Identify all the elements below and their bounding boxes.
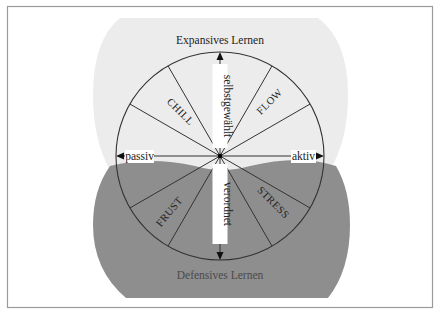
axis-label-verordnet: verordnet	[222, 182, 234, 227]
axis-label-selbstgewaehlt: selbstgewählt	[221, 75, 234, 138]
expansive-learning-title: Expansives Lernen	[176, 34, 264, 47]
diagram-canvas: selbstgewählt verordnet passiv aktiv Exp…	[0, 0, 439, 315]
defensive-learning-title: Defensives Lernen	[177, 269, 264, 281]
axis-label-passiv: passiv	[125, 150, 154, 163]
center-point	[218, 154, 222, 158]
axis-label-aktiv: aktiv	[292, 150, 315, 162]
